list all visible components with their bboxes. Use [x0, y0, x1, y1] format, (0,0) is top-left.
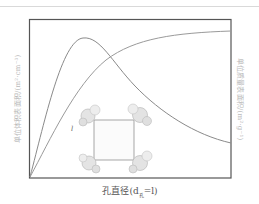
x-axis-label-tail: =l)	[144, 186, 158, 196]
x-axis-label-main: 孔直径(d	[102, 186, 138, 196]
lattice-square	[94, 120, 134, 160]
lattice-edge-label: l	[71, 125, 73, 133]
mof-lattice-inset	[79, 104, 152, 173]
chart-plot-area	[0, 0, 259, 204]
x-axis-label: 孔直径(d孔=l)	[60, 184, 200, 198]
y-axis-label-left: 单位体积表面积/(m²·cm⁻³)	[12, 44, 22, 154]
y-axis-label-right: 单位质量表面积/(m²·g⁻¹)	[236, 44, 246, 154]
